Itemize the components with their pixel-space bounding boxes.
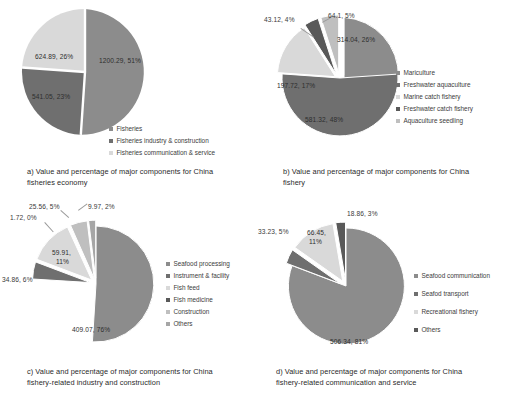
pie-chart-d: 506.34, 81% 33.23, 5% 66.45, 11% 18.86, …: [256, 198, 511, 364]
legend-label: Seafood communication: [421, 271, 490, 281]
legend-swatch-icon: [414, 310, 418, 314]
legend-item-c-2[interactable]: Fish feed: [166, 283, 230, 293]
slice-label-b-aquaculture-seedling: 64.1, 5%: [328, 12, 355, 20]
legend-label: Fish feed: [173, 283, 199, 293]
legend-item-c-3[interactable]: Fish medicine: [166, 295, 230, 305]
slice-label-c-fish-feed-value: 59.91,: [52, 249, 71, 257]
legend-item-d-3[interactable]: Others: [414, 325, 490, 335]
legend-swatch-icon: [396, 107, 400, 111]
legend-item-a-0[interactable]: Fisheries: [109, 124, 215, 134]
pie-chart-a: 1200.29, 51% 541.05, 23% 624.89, 26% Fis…: [0, 0, 255, 166]
legend-swatch-icon: [166, 322, 170, 326]
legend-item-d-0[interactable]: Seafood communication: [414, 271, 490, 281]
legend-label: Marine catch fishery: [403, 92, 460, 102]
legend-item-b-0[interactable]: Mariculture: [396, 68, 473, 78]
slice-label-d-seafod-transport: 33.23, 5%: [258, 228, 289, 236]
pie-b-graphic: [270, 6, 410, 146]
legend-label: Fish medicine: [173, 295, 212, 305]
pie-b-svg: [270, 6, 410, 146]
pie-a-graphic: [20, 6, 150, 138]
slice-label-c-seafood-processing: 409.07, 76%: [72, 326, 110, 334]
pie-chart-c: 409.07, 76% 34.86, 6% 59.91, 11% 1.72, 0…: [0, 198, 255, 364]
legend-swatch-icon: [109, 127, 113, 131]
legend-label: Freshwater aquaculture: [403, 80, 470, 90]
slice-label-a-communication: 624.89, 26%: [35, 53, 73, 61]
slice-label-b-freshwater-catch: 43.12, 4%: [264, 16, 295, 24]
legend-a: Fisheries Fisheries industry & construct…: [109, 124, 215, 160]
legend-item-a-2[interactable]: Fisheries communication & service: [109, 148, 215, 158]
panel-d: 506.34, 81% 33.23, 5% 66.45, 11% 18.86, …: [256, 198, 511, 398]
figure-page: 1200.29, 51% 541.05, 23% 624.89, 26% Fis…: [0, 0, 511, 400]
legend-label: Fisheries industry & construction: [116, 136, 208, 146]
slice-label-d-others: 18.86, 3%: [347, 210, 378, 218]
slice-label-a-industry: 541.05, 23%: [32, 93, 70, 101]
legend-item-d-1[interactable]: Seafod transport: [414, 289, 490, 299]
legend-swatch-icon: [109, 151, 113, 155]
legend-swatch-icon: [414, 292, 418, 296]
slice-label-d-seafood-communication: 506.34, 81%: [330, 338, 368, 346]
legend-swatch-icon: [396, 83, 400, 87]
legend-label: Fisheries: [116, 124, 142, 134]
legend-item-b-4[interactable]: Aquaculture seedling: [396, 116, 473, 126]
legend-swatch-icon: [414, 328, 418, 332]
legend-label: Mariculture: [403, 68, 435, 78]
legend-item-b-2[interactable]: Marine catch fishery: [396, 92, 473, 102]
slice-label-d-recreational-value: 66.45,: [307, 229, 326, 237]
legend-label: Recreational fishery: [421, 307, 477, 317]
pie-d-graphic: [276, 212, 416, 354]
leader-line-c-others: [78, 204, 87, 211]
panel-b: 314.04, 26% 581.32, 48% 197.72, 17% 43.1…: [256, 0, 511, 200]
legend-swatch-icon: [166, 310, 170, 314]
panel-c: 409.07, 76% 34.86, 6% 59.91, 11% 1.72, 0…: [0, 198, 255, 398]
legend-swatch-icon: [396, 119, 400, 123]
legend-label: Fisheries communication & service: [116, 148, 215, 158]
slice-label-b-marine-catch: 197.72, 17%: [277, 82, 315, 90]
legend-swatch-icon: [109, 139, 113, 143]
legend-d: Seafood communication Seafod transport R…: [414, 271, 490, 337]
legend-label: Construction: [173, 307, 209, 317]
legend-item-d-2[interactable]: Recreational fishery: [414, 307, 490, 317]
caption-b: b) Value and percentage of major compone…: [283, 166, 493, 188]
slice-a-fisheries: [81, 9, 144, 135]
legend-label: Seafod transport: [421, 289, 468, 299]
legend-swatch-icon: [396, 71, 400, 75]
pie-a-svg: [20, 6, 150, 138]
slice-label-c-fish-feed-percent: 11%: [56, 258, 69, 266]
slice-label-b-freshwater-aquaculture: 581.32, 48%: [305, 116, 343, 124]
legend-swatch-icon: [166, 286, 170, 290]
legend-swatch-icon: [396, 95, 400, 99]
slice-label-c-instrument-facility: 34.86, 6%: [2, 276, 33, 284]
legend-c: Seafood processing Instrument & facility…: [166, 259, 230, 331]
panel-a: 1200.29, 51% 541.05, 23% 624.89, 26% Fis…: [0, 0, 255, 200]
legend-label: Instrument & facility: [173, 271, 229, 281]
caption-a: a) Value and percentage of major compone…: [27, 166, 237, 188]
legend-item-c-4[interactable]: Construction: [166, 307, 230, 317]
legend-swatch-icon: [166, 298, 170, 302]
pie-chart-b: 314.04, 26% 581.32, 48% 197.72, 17% 43.1…: [256, 0, 511, 166]
legend-label: Others: [173, 319, 192, 329]
caption-c: c) Value and percentage of major compone…: [27, 366, 237, 388]
legend-item-b-1[interactable]: Freshwater aquaculture: [396, 80, 473, 90]
legend-label: Freshwater catch fishery: [403, 104, 473, 114]
legend-label: Others: [421, 325, 440, 335]
legend-item-c-5[interactable]: Others: [166, 319, 230, 329]
legend-label: Aquaculture seedling: [403, 116, 463, 126]
legend-swatch-icon: [166, 262, 170, 266]
legend-item-c-1[interactable]: Instrument & facility: [166, 271, 230, 281]
legend-item-b-3[interactable]: Freshwater catch fishery: [396, 104, 473, 114]
slice-label-c-fish-medicine: 1.72, 0%: [10, 214, 37, 222]
slice-label-c-construction: 25.56, 5%: [29, 203, 60, 211]
slice-c-seafood-processing: [92, 226, 153, 342]
slice-a-communication: [22, 9, 85, 72]
legend-item-c-0[interactable]: Seafood processing: [166, 259, 230, 269]
slice-label-b-mariculture: 314.04, 26%: [337, 36, 375, 44]
slice-label-a-fisheries: 1200.29, 51%: [99, 57, 141, 65]
pie-d-svg: [276, 212, 416, 354]
legend-item-a-1[interactable]: Fisheries industry & construction: [109, 136, 215, 146]
legend-swatch-icon: [414, 274, 418, 278]
caption-d: d) Value and percentage of major compone…: [276, 366, 486, 388]
slice-label-c-others: 9.97, 2%: [88, 203, 115, 211]
slice-label-d-recreational-percent: 11%: [309, 238, 322, 246]
legend-label: Seafood processing: [173, 259, 230, 269]
legend-swatch-icon: [166, 274, 170, 278]
